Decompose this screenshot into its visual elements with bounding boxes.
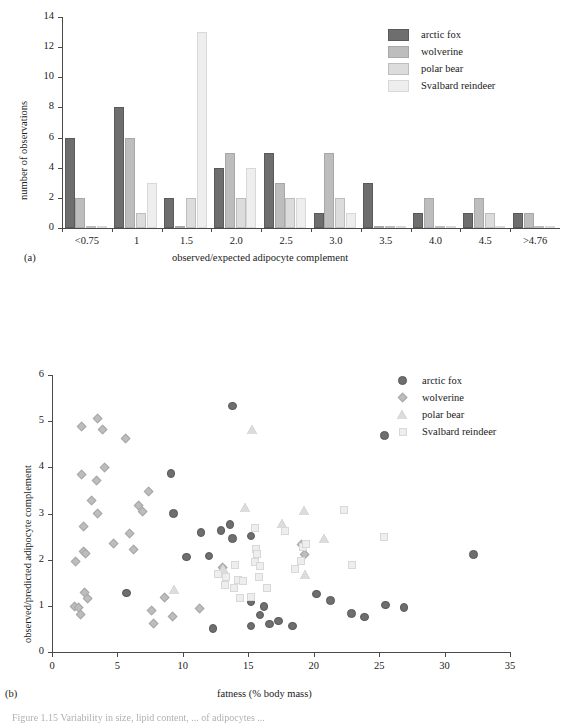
panel-a-bar [446,226,456,228]
panel-a-bar [175,226,185,228]
scatter-point-svalbard-reindeer [231,561,239,569]
scatter-point-wolverine [93,509,103,519]
panel-b-y-tick [48,375,52,376]
panel-a-bar [125,138,135,228]
panel-a-bar [346,213,356,228]
panel-a-bar [534,226,544,228]
scatter-point-arctic-fox [217,526,226,535]
panel-a-legend-item: arctic fox [388,26,495,43]
scatter-point-wolverine [86,495,96,505]
panel-a-y-tick-label: 8 [30,100,54,111]
panel-a-y-tick-label: 2 [30,191,54,202]
scatter-point-wolverine [70,557,80,567]
scatter-point-svalbard-reindeer [214,570,222,578]
scatter-point-arctic-fox [260,602,269,611]
scatter-point-arctic-fox [182,553,191,562]
legend-marker-glyph [397,410,407,419]
scatter-point-wolverine [108,538,118,548]
panel-b-x-tick [379,652,380,657]
panel-a-y-tick [58,168,62,169]
panel-a-bar [186,198,196,228]
scatter-point-polar-bear [169,585,179,594]
panel-a-x-tick [261,228,262,232]
legend-marker-glyph [397,392,407,402]
scatter-point-svalbard-reindeer [291,565,299,573]
panel-b-x-tick [445,652,446,657]
scatter-point-wolverine [195,604,205,614]
panel-a-bar [65,138,75,228]
panel-a-x-tick [411,228,412,232]
panel-a-x-tick-label: 1 [112,235,162,246]
scatter-point-arctic-fox [274,617,283,626]
legend-swatch-arctic-fox [388,29,409,41]
panel-b-x-tick-label: 35 [495,660,525,671]
scatter-point-wolverine [159,592,169,602]
panel-b-y-axis [52,375,53,653]
scatter-point-wolverine [78,521,88,531]
scatter-point-arctic-fox [381,601,390,610]
panel-a-y-tick [58,138,62,139]
panel-a-x-tick-label: 3.5 [361,235,411,246]
panel-a-bar [474,198,484,228]
scatter-point-wolverine [77,469,87,479]
panel-a-bar [463,213,473,228]
panel-b-y-tick [48,606,52,607]
panel-a-bar [264,153,274,228]
panel-b-x-tick-label: 20 [299,660,329,671]
panel-b-x-tick [183,652,184,657]
panel-a-x-tick [62,228,63,232]
panel-a-bar [275,183,285,228]
panel-a-bar [374,226,384,228]
panel-b-x-tick [117,652,118,657]
scatter-point-arctic-fox [312,590,321,599]
panel-b-x-tick [248,652,249,657]
panel-a-bar [285,198,295,228]
panel-a-legend: arctic foxwolverinepolar bearSvalbard re… [388,26,495,94]
scatter-point-polar-bear [319,534,329,543]
scatter-point-arctic-fox [228,534,237,543]
scatter-point-wolverine [120,433,130,443]
panel-a-y-axis [62,17,63,229]
panel-a-y-tick-label: 12 [30,40,54,51]
panel-a-x-tick [112,228,113,232]
scatter-point-arctic-fox [265,620,274,629]
panel-a-legend-item: wolverine [388,43,495,60]
panel-b-y-tick-label: 6 [22,368,44,379]
panel-a-bar [413,213,423,228]
panel-b-x-tick [52,652,53,657]
panel-b-x-tick [314,652,315,657]
panel-b-scatter-plot: observed/predicted adipocyte complement … [0,355,575,705]
scatter-point-svalbard-reindeer [255,573,263,581]
scatter-point-svalbard-reindeer [340,506,348,514]
panel-a-x-tick [211,228,212,232]
panel-a-bar [485,213,495,228]
legend-swatch-svalbard-reindeer [388,80,409,92]
panel-b-y-tick [48,514,52,515]
scatter-point-wolverine [144,486,154,496]
panel-a-y-tick [58,107,62,108]
panel-b-letter: (b) [5,688,17,699]
panel-a-x-tick-label: 4.5 [460,235,510,246]
scatter-point-arctic-fox [380,431,389,440]
panel-b-x-tick [510,652,511,657]
scatter-point-polar-bear [247,425,257,434]
panel-a-bar [396,226,406,228]
panel-a-legend-item: Svalbard reindeer [388,77,495,94]
panel-b-x-axis-title: fatness (% body mass) [217,688,312,699]
panel-a-y-tick [58,17,62,18]
panel-a-x-tick-label: 3.0 [311,235,361,246]
panel-a-bar [246,168,256,228]
panel-a-x-tick [311,228,312,232]
scatter-point-svalbard-reindeer [281,527,289,535]
panel-a-legend-label: wolverine [421,46,463,57]
scatter-point-arctic-fox [469,550,478,559]
legend-marker-wolverine [392,391,413,404]
panel-b-legend-item: polar bear [392,406,496,423]
scatter-point-arctic-fox [400,603,409,612]
scatter-point-svalbard-reindeer [230,584,238,592]
panel-a-legend-label: Svalbard reindeer [421,80,495,91]
panel-b-y-tick-label: 5 [22,414,44,425]
panel-b-x-tick-label: 5 [102,660,132,671]
panel-b-legend-item: wolverine [392,389,496,406]
scatter-point-wolverine [91,475,101,485]
